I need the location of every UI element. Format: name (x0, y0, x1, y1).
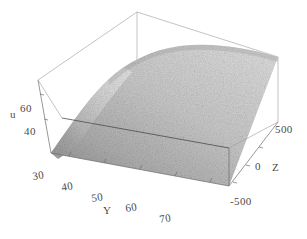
tick-label-y-40: 40 (60, 179, 74, 193)
box-edge-vertical-left (38, 80, 51, 153)
tick-z-500 (259, 147, 263, 148)
tick-z-minus500 (233, 182, 237, 183)
surface-mesh (51, 45, 278, 186)
tick-label-y-50: 50 (90, 190, 104, 204)
surface-plot-figure: u 60 40 30 40 50 60 70 Y 500 0 -500 Z (0, 0, 307, 239)
tick-label-u-40: 40 (24, 125, 36, 137)
tick-label-z-minus500: -500 (230, 195, 252, 207)
axis-title-u: u (10, 108, 16, 120)
tick-label-z-0: 0 (255, 160, 261, 172)
axis-title-y: Y (103, 204, 111, 216)
tick-u-40 (44, 119, 48, 120)
tick-label-y-60: 60 (124, 200, 138, 214)
plot-canvas: u 60 40 30 40 50 60 70 Y 500 0 -500 Z (0, 0, 307, 239)
axis-title-z: Z (272, 161, 279, 173)
tick-label-z-500: 500 (275, 123, 293, 135)
tick-label-y-30: 30 (31, 168, 45, 182)
tick-label-u-60: 60 (20, 102, 32, 114)
tick-z-0 (246, 165, 250, 166)
tick-label-y-70: 70 (158, 211, 172, 225)
